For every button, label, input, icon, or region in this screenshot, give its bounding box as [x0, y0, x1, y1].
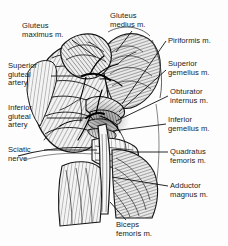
- label-sciatic-nerve: Sciatic nerve: [8, 146, 31, 163]
- label-line: artery: [8, 121, 32, 130]
- label-line: femoris m.: [116, 230, 152, 239]
- label-line: artery: [8, 79, 37, 88]
- label-line: internus m.: [170, 97, 208, 106]
- label-line: medius m.: [110, 21, 145, 30]
- label-gluteus-medius: Gluteus medius m.: [110, 12, 145, 29]
- label-inferior-gluteal-artery: Inferior gluteal artery: [8, 104, 32, 130]
- label-biceps-femoris: Biceps femoris m.: [116, 221, 152, 238]
- label-superior-gluteal-artery: Superior gluteal artery: [8, 62, 37, 88]
- label-line: Piriformis m.: [168, 37, 211, 46]
- label-line: gemellus m.: [168, 125, 210, 134]
- label-quadratus-femoris: Quadratus femoris m.: [170, 148, 206, 165]
- anatomy-figure: Gluteus maximus m. Gluteus medius m. Pir…: [0, 0, 228, 246]
- label-gluteus-maximus: Gluteus maximus m.: [22, 22, 63, 39]
- label-line: maximus m.: [22, 31, 63, 40]
- label-adductor-magnus: Adductor magnus m.: [170, 182, 208, 199]
- label-line: femoris m.: [170, 157, 206, 166]
- label-line: magnus m.: [170, 191, 208, 200]
- label-layer: Gluteus maximus m. Gluteus medius m. Pir…: [0, 0, 228, 246]
- label-piriformis: Piriformis m.: [168, 37, 211, 46]
- label-superior-gemellus: Superior gemellus m.: [168, 60, 210, 77]
- label-line: gemellus m.: [168, 69, 210, 78]
- label-inferior-gemellus: Inferior gemellus m.: [168, 116, 210, 133]
- label-line: nerve: [8, 155, 31, 164]
- label-obturator-internus: Obturator internus m.: [170, 88, 208, 105]
